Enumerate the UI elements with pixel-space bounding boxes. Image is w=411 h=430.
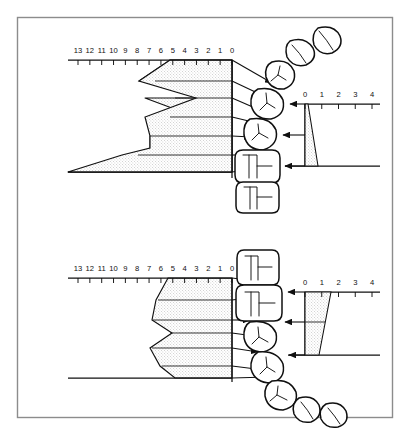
upper-left-scale-label-9: 9 [123,46,127,55]
lower-left-scale-label-10: 10 [109,264,117,273]
upper-left-scale-label-10: 10 [109,46,117,55]
lower-right-scale-label-4: 4 [370,278,374,287]
upper-right-scale-label-0: 0 [303,90,307,99]
lower-left-scale-label-9: 9 [123,264,127,273]
upper-right-scale-label-1: 1 [320,90,324,99]
lower-right-scale-label-1: 1 [320,278,324,287]
upper-left-scale-label-0: 0 [230,46,234,55]
upper-left-scale-label-4: 4 [182,46,186,55]
lower-left-scale-label-13: 13 [74,264,82,273]
tooth-canine [266,61,295,89]
tooth-second-premolar [244,118,277,150]
tooth-second-premolar [244,321,277,352]
tooth-second-molar [236,182,279,213]
tooth-first-molar [235,150,280,183]
upper-right-scale-label-4: 4 [370,90,374,99]
upper-left-scale-label-11: 11 [98,46,106,55]
upper-left-scale-label-13: 13 [74,46,82,55]
lower-left-scale-label-5: 5 [171,264,175,273]
upper-left-scale-label-6: 6 [159,46,163,55]
upper-left-scale-label-1: 1 [218,46,222,55]
upper-right-scale-label-3: 3 [353,90,357,99]
lower-left-scale-label-6: 6 [159,264,163,273]
upper-left-scale-label-3: 3 [194,46,198,55]
lower-left-scale-label-2: 2 [206,264,210,273]
lower-left-scale-label-8: 8 [135,264,139,273]
upper-left-scale-label-2: 2 [206,46,210,55]
upper-left-scale-label-7: 7 [147,46,151,55]
lower-left-scale-label-12: 12 [86,264,94,273]
tooth-canine [265,380,297,410]
arch-analysis-figure: 131211109876543210 [0,0,411,430]
lower-left-scale-label-4: 4 [182,264,186,273]
upper-left-scale-label-12: 12 [86,46,94,55]
lower-left-scale-label-11: 11 [98,264,106,273]
lower-left-scale-label-0: 0 [230,264,234,273]
lower-right-scale-label-3: 3 [353,278,357,287]
upper-right-scale-label-2: 2 [336,90,340,99]
figure-root: 131211109876543210 [0,0,411,430]
lower-left-scale-label-7: 7 [147,264,151,273]
upper-left-scale-label-5: 5 [171,46,175,55]
tooth-first-premolar [251,88,284,119]
lower-right-scale-label-0: 0 [303,278,307,287]
lower-left-scale-label-3: 3 [194,264,198,273]
lower-left-scale-label-1: 1 [218,264,222,273]
lower-right-scale-label-2: 2 [336,278,340,287]
upper-left-scale-label-8: 8 [135,46,139,55]
